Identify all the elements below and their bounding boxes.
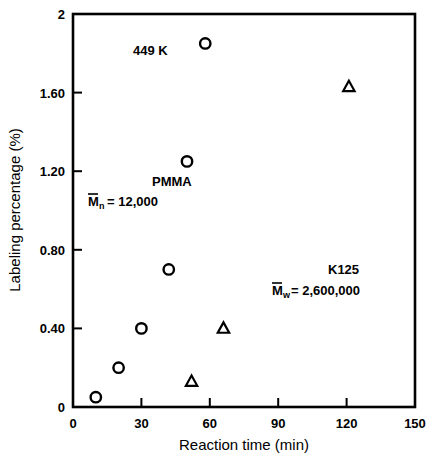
y-tick-label: 0.80 [40, 243, 65, 258]
x-tick-label: 90 [271, 416, 285, 431]
k125-mw-subscript: w [282, 290, 291, 300]
x-tick-label: 60 [203, 416, 217, 431]
k125-mw-base: M [272, 283, 283, 298]
pmma-mn-value: = 12,000 [107, 194, 158, 209]
x-tick-label: 30 [134, 416, 148, 431]
plot-background [0, 0, 435, 460]
pmma-mn-subscript: n [99, 201, 105, 211]
x-axis-title: Reaction time (min) [179, 436, 309, 453]
x-tick-label: 150 [404, 416, 426, 431]
y-tick-label: 0 [58, 400, 65, 415]
annotation-temperature: 449 K [133, 43, 168, 58]
y-tick-label: 1.20 [40, 164, 65, 179]
x-tick-label: 120 [336, 416, 358, 431]
y-axis-title: Labeling percentage (%) [6, 128, 23, 291]
pmma-mn-base: M [88, 194, 99, 209]
annotation-pmma-name: PMMA [152, 174, 192, 189]
annotation-k125-name: K125 [328, 262, 359, 277]
plot-canvas: 00.400.801.201.602 0306090120150 Reactio… [0, 0, 435, 460]
x-tick-label: 0 [69, 416, 76, 431]
annotation-pmma-mn: M n = 12,000 [88, 194, 158, 211]
scatter-plot-figure: 00.400.801.201.602 0306090120150 Reactio… [0, 0, 435, 460]
y-tick-label: 1.60 [40, 86, 65, 101]
k125-mw-value: = 2,600,000 [291, 283, 360, 298]
y-tick-label: 0.40 [40, 321, 65, 336]
y-tick-label: 2 [58, 7, 65, 22]
